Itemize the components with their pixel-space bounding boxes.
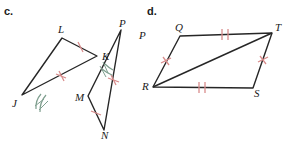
vertex-label-s: S xyxy=(254,88,260,99)
vertex-label-p-c: P xyxy=(119,18,126,29)
vertex-label-n: N xyxy=(101,130,108,141)
vertex-label-m: M xyxy=(75,92,84,103)
vertex-label-p-d: P xyxy=(139,30,146,41)
vertex-label-r: R xyxy=(142,81,149,92)
vertex-label-j: J xyxy=(12,98,17,109)
geometry-figure-panel: c. d. xyxy=(0,0,289,144)
vertex-label-k: K xyxy=(102,51,109,62)
vertex-label-q: Q xyxy=(175,22,183,33)
vertex-label-t: T xyxy=(275,22,281,33)
vertex-label-l: L xyxy=(58,24,64,35)
diagonal-rt xyxy=(153,33,272,87)
part-d-parallelogram-svg xyxy=(0,0,289,144)
